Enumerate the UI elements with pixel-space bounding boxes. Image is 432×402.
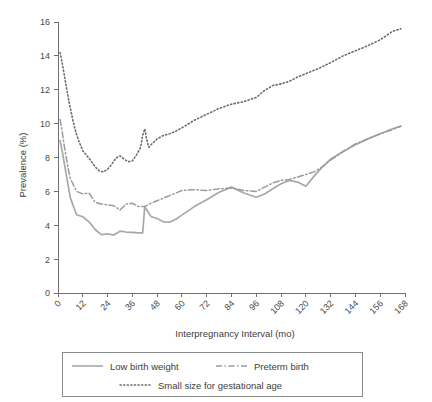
x-tick-label: 24: [98, 298, 112, 312]
y-tick-label: 16: [40, 17, 50, 27]
x-tick-label: 156: [367, 298, 385, 316]
x-tick-label: 36: [123, 298, 137, 312]
x-tick-label: 72: [197, 298, 211, 312]
series-lines: [60, 29, 401, 235]
legend-item-small-size-gestational-age: Small size for gestational age: [120, 380, 282, 391]
x-tick-label: 0: [52, 298, 63, 309]
x-tick-label: 48: [148, 298, 162, 312]
y-tick-label: 10: [40, 119, 50, 129]
line-chart-svg: 0246810121416 01224364860728496108120132…: [0, 0, 432, 402]
x-tick-label: 120: [293, 298, 311, 316]
y-axis-ticks: 0246810121416: [40, 17, 58, 298]
legend-item-preterm-birth: Preterm birth: [216, 361, 309, 372]
x-tick-label: 12: [74, 298, 88, 312]
y-tick-label: 2: [45, 255, 50, 265]
series-line-low-birth-weight: [60, 126, 401, 235]
x-tick-label: 132: [318, 298, 336, 316]
x-axis-ticks: 01224364860728496108120132144156168: [52, 293, 410, 316]
y-tick-label: 0: [45, 288, 50, 298]
y-tick-label: 14: [40, 51, 50, 61]
legend-label-2: Small size for gestational age: [158, 380, 282, 391]
series-line-small-size-for-gestational-age: [60, 29, 401, 172]
y-tick-label: 4: [45, 221, 50, 231]
chart-figure: 0246810121416 01224364860728496108120132…: [0, 0, 432, 402]
x-axis-title: Interpregnancy Interval (mo): [175, 328, 294, 339]
x-tick-label: 60: [173, 298, 187, 312]
x-tick-label: 144: [343, 298, 361, 316]
x-tick-label: 108: [268, 298, 286, 316]
x-tick-label: 168: [392, 298, 410, 316]
legend-item-low-birth-weight: Low birth weight: [72, 361, 179, 372]
x-tick-label: 84: [222, 298, 236, 312]
legend: Low birth weight Preterm birth Small siz…: [72, 361, 309, 391]
y-tick-label: 8: [45, 153, 50, 163]
y-tick-label: 12: [40, 85, 50, 95]
x-tick-label: 96: [247, 298, 261, 312]
y-axis-title: Prevalence (%): [17, 133, 28, 198]
legend-label-0: Low birth weight: [110, 361, 179, 372]
legend-label-1: Preterm birth: [254, 361, 309, 372]
y-tick-label: 6: [45, 187, 50, 197]
